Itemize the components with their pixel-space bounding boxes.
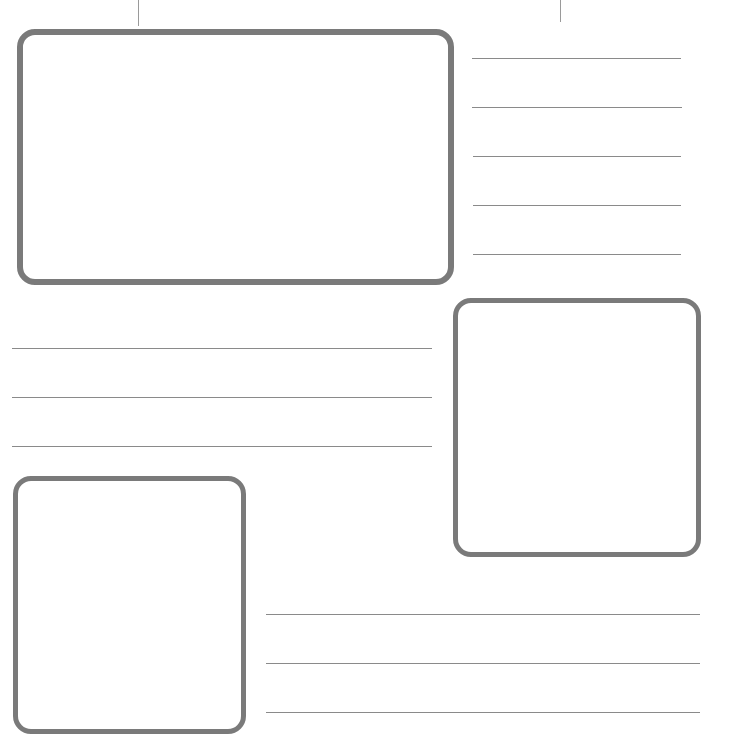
writing-line[interactable] xyxy=(266,614,700,615)
writing-line[interactable] xyxy=(473,156,681,157)
crop-mark-left xyxy=(138,0,139,26)
crop-mark-right xyxy=(560,0,561,22)
frame-middle-right[interactable] xyxy=(453,298,701,557)
writing-line[interactable] xyxy=(12,397,432,398)
writing-line[interactable] xyxy=(266,712,700,713)
writing-line[interactable] xyxy=(472,107,682,108)
writing-line[interactable] xyxy=(473,205,681,206)
frame-top-left[interactable] xyxy=(17,29,454,285)
writing-line[interactable] xyxy=(12,446,432,447)
writing-line[interactable] xyxy=(473,254,681,255)
writing-line[interactable] xyxy=(472,58,681,59)
writing-line[interactable] xyxy=(266,663,700,664)
frame-bottom-left[interactable] xyxy=(13,476,246,734)
writing-line[interactable] xyxy=(12,348,432,349)
